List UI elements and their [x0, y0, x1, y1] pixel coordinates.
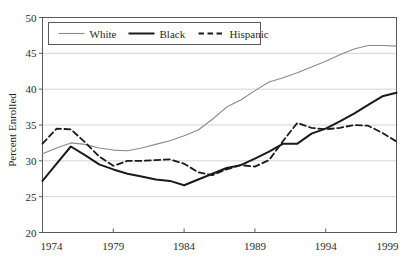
x-tick-label-1994: 1994: [315, 240, 338, 252]
x-tick-label-1974: 1974: [41, 240, 64, 252]
series-line-white: [43, 45, 397, 153]
chart-legend: WhiteBlackHispanic: [49, 23, 269, 45]
y-axis-title: Percent Enrolled: [6, 93, 18, 167]
y-tick-label-25: 25: [26, 191, 38, 203]
y-tick-label-20: 20: [26, 227, 38, 239]
x-tick-label-1989: 1989: [244, 240, 267, 252]
line-chart: 50454035302520 197419791984198919941999 …: [0, 0, 419, 264]
legend-label-white: White: [90, 28, 117, 40]
y-tick-label-40: 40: [26, 83, 38, 95]
legend-label-hispanic: Hispanic: [230, 28, 269, 40]
y-tick-label-50: 50: [26, 12, 38, 24]
chart-figure: 50454035302520 197419791984198919941999 …: [0, 0, 419, 264]
x-tick-label-1999: 1999: [377, 240, 400, 252]
data-series-group: [43, 45, 397, 185]
y-tick-label-45: 45: [26, 47, 38, 59]
x-axis-tick-labels: 197419791984198919941999: [41, 240, 400, 252]
y-tick-label-30: 30: [26, 155, 38, 167]
legend-label-black: Black: [160, 28, 186, 40]
series-line-hispanic: [43, 123, 397, 175]
x-tick-label-1979: 1979: [102, 240, 125, 252]
y-axis-tick-labels: 50454035302520: [26, 12, 38, 239]
x-tick-label-1984: 1984: [173, 240, 196, 252]
y-tick-label-35: 35: [26, 119, 38, 131]
